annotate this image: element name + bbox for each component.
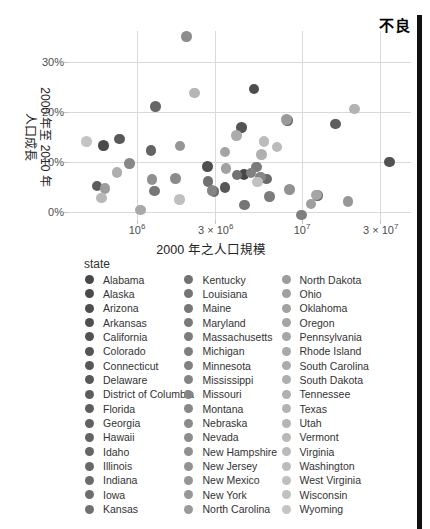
- legend-swatch: [282, 289, 291, 298]
- legend-state-label: Kansas: [103, 503, 138, 515]
- legend-state-label: Tennessee: [300, 388, 351, 400]
- legend-state-label: Florida: [103, 403, 135, 415]
- legend-swatch: [85, 289, 94, 298]
- legend-state-label: Michigan: [203, 345, 245, 357]
- scatter-point: [239, 200, 250, 211]
- x-tick-label: 106: [102, 224, 172, 237]
- legend-swatch: [282, 433, 291, 442]
- scatter-point: [98, 140, 109, 151]
- legend-swatch: [184, 375, 193, 384]
- legend-state-label: Minnesota: [203, 360, 251, 372]
- legend-swatch: [282, 462, 291, 471]
- legend-swatch: [85, 304, 94, 313]
- x-tick-label: 3 × 106: [181, 224, 251, 237]
- legend-swatch: [184, 361, 193, 370]
- legend-swatch: [282, 318, 291, 327]
- scatter-point: [306, 199, 317, 210]
- legend-state-label: Idaho: [103, 446, 129, 458]
- legend-swatch: [184, 404, 193, 413]
- scatter-point: [272, 142, 283, 153]
- scatter-point: [311, 190, 322, 201]
- legend-state-label: Indiana: [103, 474, 137, 486]
- legend-swatch: [184, 390, 193, 399]
- y-tick-mark: [64, 62, 68, 63]
- legend-state-label: South Dakota: [300, 374, 364, 386]
- legend-state-label: Washington: [300, 460, 355, 472]
- bad-quality-bar: [417, 15, 422, 529]
- legend-swatch: [85, 419, 94, 428]
- legend-swatch: [184, 275, 193, 284]
- figure-canvas: 1063 × 1061073 × 1070%10%20%30% 2000 年至 …: [0, 0, 430, 529]
- legend-state-label: Pennsylvania: [300, 331, 362, 343]
- legend-swatch: [184, 447, 193, 456]
- legend-swatch: [184, 332, 193, 341]
- legend-state-label: North Carolina: [203, 503, 271, 515]
- scatter-point: [330, 119, 341, 130]
- legend-swatch: [85, 462, 94, 471]
- y-axis-title-line1: 2000 年至 2010 年: [37, 87, 52, 186]
- legend-swatch: [282, 361, 291, 370]
- legend-state-label: Massachusetts: [203, 331, 273, 343]
- legend-state-label: Maine: [203, 302, 232, 314]
- legend-state-label: Montana: [203, 403, 244, 415]
- legend-swatch: [184, 476, 193, 485]
- scatter-point: [349, 104, 360, 115]
- legend-swatch: [282, 419, 291, 428]
- scatter-point: [221, 163, 232, 174]
- legend-swatch: [85, 404, 94, 413]
- legend-swatch: [184, 490, 193, 499]
- scatter-point: [170, 173, 181, 184]
- scatter-point: [96, 193, 107, 204]
- legend-state-label: Oklahoma: [300, 302, 348, 314]
- legend-swatch: [85, 447, 94, 456]
- scatter-point: [124, 158, 135, 169]
- legend-swatch: [282, 375, 291, 384]
- legend-swatch: [184, 347, 193, 356]
- scatter-point: [252, 177, 263, 188]
- scatter-point: [231, 130, 242, 141]
- scatter-point: [81, 136, 92, 147]
- legend-state-label: Kentucky: [203, 274, 246, 286]
- scatter-point: [189, 88, 200, 99]
- scatter-point: [249, 84, 260, 95]
- legend-swatch: [282, 275, 291, 284]
- legend-state-label: Ohio: [300, 288, 322, 300]
- legend-swatch: [184, 505, 193, 514]
- legend-swatch: [85, 505, 94, 514]
- y-gridline: [68, 112, 411, 113]
- x-axis-title: 2000 年之人口規模: [156, 239, 265, 258]
- legend-state-label: Maryland: [203, 317, 246, 329]
- legend-state-label: Iowa: [103, 489, 125, 501]
- legend-state-label: Wyoming: [300, 503, 344, 515]
- legend-state-label: New Hampshire: [203, 446, 278, 458]
- legend-swatch: [282, 347, 291, 356]
- legend-state-label: District of Columbia: [103, 388, 194, 400]
- scatter-point: [202, 161, 213, 172]
- x-gridline: [380, 31, 381, 220]
- bad-quality-label: 不良: [379, 14, 411, 35]
- legend-swatch: [85, 476, 94, 485]
- x-tick-label: 3 × 107: [346, 224, 416, 237]
- legend-state-label: Illinois: [103, 460, 132, 472]
- legend-title: state: [84, 257, 110, 271]
- legend-swatch: [184, 289, 193, 298]
- scatter-point: [147, 174, 158, 185]
- legend-swatch: [282, 304, 291, 313]
- legend-swatch: [85, 490, 94, 499]
- legend-state-label: Mississippi: [203, 374, 254, 386]
- legend-swatch: [282, 490, 291, 499]
- y-tick-label: 0%: [20, 205, 64, 219]
- legend-swatch: [85, 433, 94, 442]
- scatter-point: [114, 134, 125, 145]
- legend-swatch: [282, 447, 291, 456]
- x-tick-label: 107: [267, 224, 337, 237]
- legend-state-label: Hawaii: [103, 431, 135, 443]
- legend-swatch: [85, 361, 94, 370]
- legend-state-label: Alabama: [103, 274, 144, 286]
- legend-swatch: [282, 404, 291, 413]
- y-axis-title-line2: 人口成長: [22, 87, 37, 186]
- y-tick-mark: [64, 112, 68, 113]
- scatter-point: [207, 185, 218, 196]
- scatter-point: [284, 184, 295, 195]
- legend-state-label: South Carolina: [300, 360, 369, 372]
